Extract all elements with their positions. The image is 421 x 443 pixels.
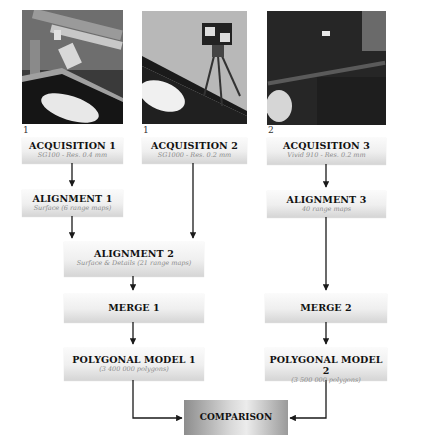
acquisition-3-node: ACQUISITION 3 Vivid 910 - Res. 0.2 mm	[267, 137, 386, 164]
node-title: ALIGNMENT 3	[267, 194, 386, 205]
node-subtitle: SG1000 - Res. 0.2 mm	[142, 151, 247, 160]
node-title: ALIGNMENT 2	[64, 248, 204, 259]
polygonal-model-2-node: POLYGONAL MODEL 2 (3 500 000 polygons)	[265, 347, 387, 380]
node-subtitle: (3 400 000 polygons)	[64, 365, 204, 374]
node-subtitle: Vivid 910 - Res. 0.2 mm	[267, 151, 386, 160]
node-subtitle: 40 range maps	[267, 205, 386, 214]
comparison-node: COMPARISON	[184, 400, 288, 435]
node-title: POLYGONAL MODEL 2	[265, 354, 387, 376]
acquisition-2-node: ACQUISITION 2 SG1000 - Res. 0.2 mm	[142, 137, 247, 163]
merge-1-node: MERGE 1	[64, 293, 204, 322]
acquisition-1-node: ACQUISITION 1 SG100 - Res. 0.4 mm	[22, 137, 123, 163]
node-title: ACQUISITION 2	[142, 140, 247, 151]
node-title: POLYGONAL MODEL 1	[64, 354, 204, 365]
node-title: COMPARISON	[200, 412, 272, 422]
alignment-3-node: ALIGNMENT 3 40 range maps	[267, 190, 386, 217]
node-title: ACQUISITION 3	[267, 140, 386, 151]
merge-2-node: MERGE 2	[265, 293, 387, 322]
node-title: MERGE 2	[265, 302, 387, 313]
node-subtitle: Surface (6 range maps)	[22, 204, 123, 213]
node-title: MERGE 1	[64, 302, 204, 313]
alignment-1-node: ALIGNMENT 1 Surface (6 range maps)	[22, 189, 123, 216]
node-title: ALIGNMENT 1	[22, 193, 123, 204]
alignment-2-node: ALIGNMENT 2 Surface & Details (21 range …	[64, 241, 204, 276]
node-title: ACQUISITION 1	[22, 140, 123, 151]
node-subtitle: Surface & Details (21 range maps)	[64, 259, 204, 268]
node-subtitle: (3 500 000 polygons)	[265, 376, 387, 385]
node-subtitle: SG100 - Res. 0.4 mm	[22, 151, 123, 160]
polygonal-model-1-node: POLYGONAL MODEL 1 (3 400 000 polygons)	[64, 347, 204, 380]
